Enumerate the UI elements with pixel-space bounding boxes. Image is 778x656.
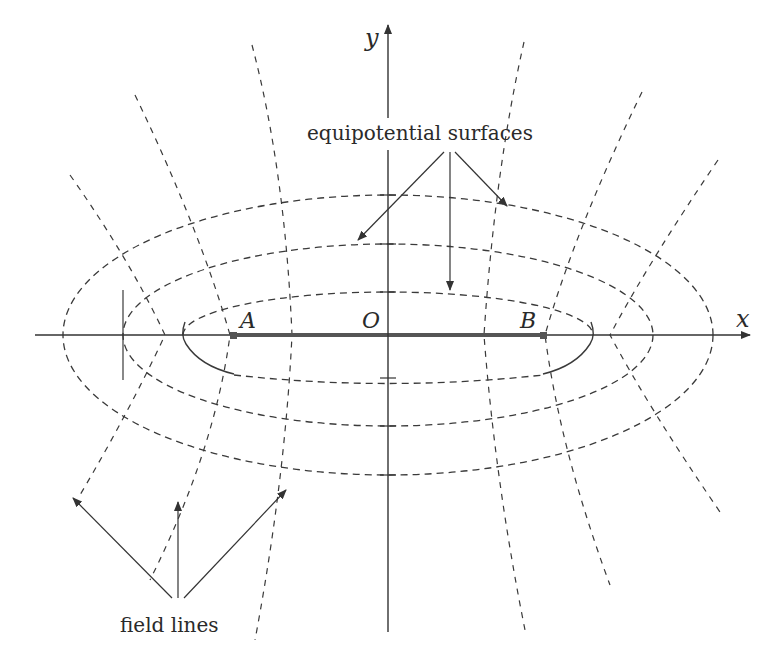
point-a-marker [230, 332, 237, 339]
point-a-label: A [238, 308, 256, 333]
equipotential-annotation: equipotential surfaces [307, 121, 533, 145]
x-axis-label: x [736, 305, 750, 333]
field-diagram: y x O A B equipotential surfaces field l… [0, 0, 778, 656]
field-lines-annotation: field lines [120, 613, 219, 637]
field-line-right-1 [610, 160, 720, 512]
point-b-marker [540, 332, 547, 339]
field-line-left-3 [252, 45, 292, 640]
equipotential-pointer-arrows [358, 152, 507, 290]
field-lines-pointer-arrows [73, 490, 286, 598]
point-b-label: B [519, 308, 536, 333]
field-line-right-2 [545, 92, 642, 585]
y-axis-label: y [364, 24, 379, 52]
origin-label: O [362, 308, 380, 333]
